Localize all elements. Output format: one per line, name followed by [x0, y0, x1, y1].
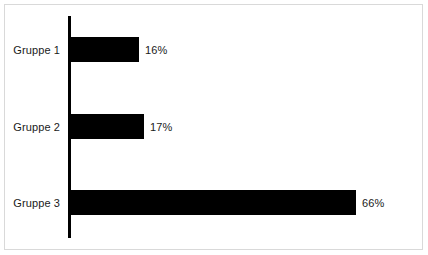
bar-row: Gruppe 3 66%: [0, 190, 428, 215]
plot-area: Gruppe 1 16% Gruppe 2 17% Gruppe 3 66%: [0, 0, 428, 255]
bar-track-gruppe-1: 16%: [70, 37, 167, 62]
value-label-gruppe-3: 66%: [362, 197, 384, 209]
bar-row: Gruppe 1 16%: [0, 37, 428, 62]
category-label-gruppe-3: Gruppe 3: [0, 197, 60, 209]
bar-track-gruppe-2: 17%: [70, 114, 172, 139]
bar-chart-figure: Gruppe 1 16% Gruppe 2 17% Gruppe 3 66%: [0, 0, 428, 255]
category-label-gruppe-2: Gruppe 2: [0, 121, 60, 133]
category-label-gruppe-1: Gruppe 1: [0, 44, 60, 56]
bar-gruppe-2: [70, 114, 144, 139]
bar-gruppe-3: [70, 190, 356, 215]
bar-gruppe-1: [70, 37, 139, 62]
bar-row: Gruppe 2 17%: [0, 114, 428, 139]
value-label-gruppe-1: 16%: [145, 44, 167, 56]
bar-track-gruppe-3: 66%: [70, 190, 384, 215]
value-label-gruppe-2: 17%: [150, 121, 172, 133]
